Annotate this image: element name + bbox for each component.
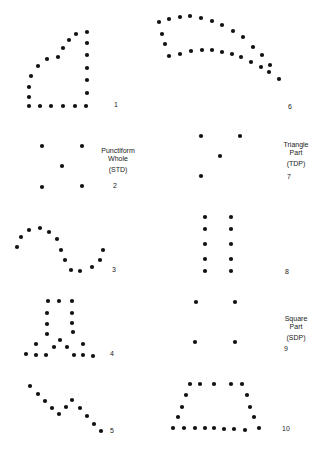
dot [65, 345, 69, 349]
dot [70, 311, 74, 315]
dot [239, 55, 243, 59]
dot [222, 427, 226, 431]
dot [15, 245, 19, 249]
dot [78, 269, 82, 273]
dot [98, 258, 102, 262]
figure-6 [157, 14, 281, 81]
dot [58, 338, 62, 342]
dot [36, 64, 40, 68]
dot [70, 321, 74, 325]
dot [24, 352, 28, 356]
dot [167, 54, 171, 58]
dot [178, 52, 182, 56]
dot [49, 104, 53, 108]
dot [167, 17, 171, 21]
dot [212, 426, 216, 430]
dot [229, 269, 233, 273]
figure-9-caption-line: Part [276, 323, 316, 331]
dot [70, 398, 74, 402]
dot [251, 45, 255, 49]
dot [57, 299, 61, 303]
dot [40, 144, 44, 148]
dot [252, 415, 256, 419]
dot [46, 299, 50, 303]
figure-9-caption-line: Square [276, 315, 316, 323]
dot [203, 257, 207, 261]
dot [267, 70, 271, 74]
figure-7-caption: Triangle Part (TDP) [276, 141, 316, 168]
dot [29, 74, 33, 78]
dot [180, 405, 184, 409]
figure-8 [203, 215, 233, 273]
figure-2-caption-line: Whole [96, 155, 140, 163]
dot [233, 300, 237, 304]
dot [81, 342, 85, 346]
figure-number-4: 4 [110, 350, 114, 357]
dot [229, 215, 233, 219]
dot [229, 382, 233, 386]
dot [45, 332, 49, 336]
dot [85, 30, 89, 34]
dot [36, 392, 40, 396]
figure-5 [28, 384, 103, 433]
figure-number-2: 2 [113, 182, 117, 189]
figure-10 [171, 382, 261, 432]
figure-9 [193, 300, 237, 344]
dot [38, 104, 42, 108]
dot [203, 269, 207, 273]
figure-number-9: 9 [284, 345, 288, 352]
dot [231, 29, 235, 33]
dot [259, 65, 263, 69]
dot [28, 384, 32, 388]
dot [243, 428, 247, 432]
dot [85, 91, 89, 95]
dot [203, 242, 207, 246]
dot [52, 345, 56, 349]
figure-number-10: 10 [282, 425, 290, 432]
dot-figures-canvas [0, 0, 320, 451]
dot [85, 53, 89, 57]
dot [210, 19, 214, 23]
dot [188, 14, 192, 18]
dot [101, 248, 105, 252]
figure-number-1: 1 [114, 101, 118, 108]
dot [260, 53, 264, 57]
dot [67, 38, 71, 42]
dot [220, 50, 224, 54]
dot [50, 406, 54, 410]
figure-number-7: 7 [287, 173, 291, 180]
dot [27, 95, 31, 99]
dot [182, 426, 186, 430]
dot [56, 55, 60, 59]
dot [188, 382, 192, 386]
dot [85, 78, 89, 82]
dot [64, 405, 68, 409]
dot [45, 311, 49, 315]
dot [212, 382, 216, 386]
dot [69, 268, 73, 272]
dot [90, 265, 94, 269]
dot [199, 134, 203, 138]
dot [73, 104, 77, 108]
dot [199, 16, 203, 20]
figure-number-3: 3 [112, 266, 116, 273]
figure-number-6: 6 [288, 103, 292, 110]
dot [34, 342, 38, 346]
dot [203, 215, 207, 219]
dot [47, 230, 51, 234]
dot [57, 412, 61, 416]
dot [45, 322, 49, 326]
dot [27, 104, 31, 108]
dot [63, 258, 67, 262]
dot [59, 248, 63, 252]
dot [199, 174, 203, 178]
dot [85, 66, 89, 70]
dot [171, 426, 175, 430]
dot [81, 353, 85, 357]
dot [40, 185, 44, 189]
dot [245, 393, 249, 397]
dot [268, 63, 272, 67]
dot [80, 144, 84, 148]
dot [248, 405, 252, 409]
dot [163, 42, 167, 46]
